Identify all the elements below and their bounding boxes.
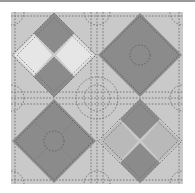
quilt-image: [11, 12, 183, 184]
top-border-line: [0, 0, 195, 2]
